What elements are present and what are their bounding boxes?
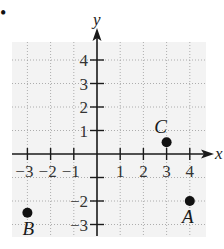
list-bullet: • [0,3,6,23]
x-tick-label: −1 [62,162,80,181]
y-axis-label: y [91,10,101,29]
x-axis-label: x [214,144,223,163]
y-tick-label: 1 [80,122,89,141]
y-tick-label: 4 [80,51,89,70]
point-b [22,208,32,218]
x-tick-label: −3 [15,162,33,181]
x-tick-label: 4 [186,162,195,181]
grid-background [12,42,206,237]
y-tick-label: −2 [70,192,88,211]
y-tick-label: 2 [80,98,89,117]
y-tick-label: −3 [70,216,88,235]
y-tick-label: 3 [80,75,89,94]
point-label-c: C [154,116,167,137]
point-label-b: B [23,218,35,239]
x-tick-label: 3 [162,162,171,181]
x-tick-label: −2 [39,162,57,181]
point-label-a: A [180,206,194,227]
point-c [162,137,172,147]
x-tick-label: 1 [116,162,125,181]
coordinate-plane: • −3−2−112344321−2−3 y x ABC [0,0,224,249]
x-tick-label: 2 [139,162,148,181]
point-a [185,196,195,206]
